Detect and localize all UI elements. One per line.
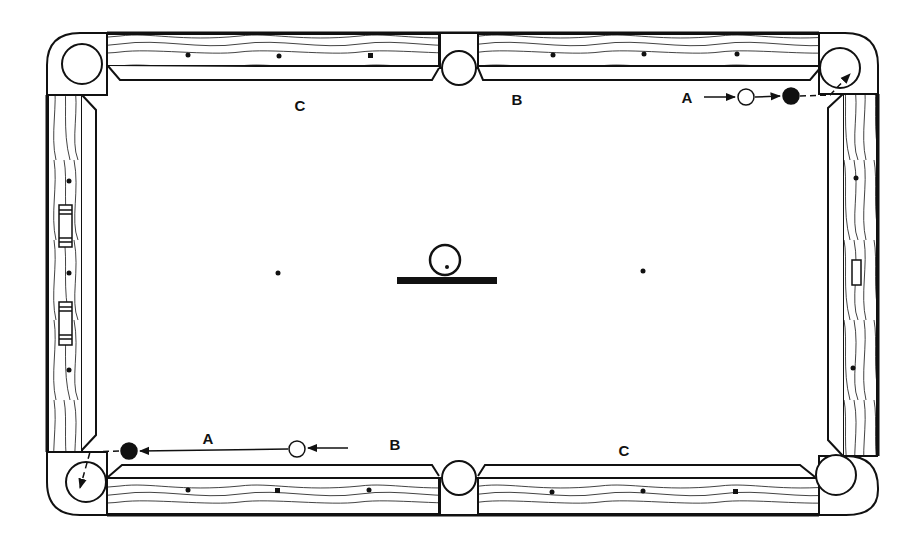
label-top-a: A bbox=[682, 90, 693, 105]
rail-diamonds bbox=[67, 52, 859, 495]
balls bbox=[121, 88, 799, 459]
label-bottom-a: A bbox=[203, 431, 214, 446]
cushions bbox=[82, 66, 843, 477]
table-frame bbox=[47, 33, 878, 515]
table-spots bbox=[276, 269, 646, 276]
label-top-b: B bbox=[512, 92, 523, 107]
head-spot bbox=[276, 271, 281, 276]
foot-spot bbox=[641, 269, 646, 274]
top-object-ball bbox=[783, 88, 799, 104]
rail-hinges bbox=[59, 205, 861, 345]
label-bottom-c: C bbox=[619, 443, 630, 458]
top-cue-ball bbox=[738, 89, 754, 105]
pool-table-diagram: C B A A B C bbox=[0, 0, 922, 544]
bottom-cue-ball bbox=[289, 441, 305, 457]
corner-pockets bbox=[47, 33, 878, 515]
pool-table-drawing bbox=[0, 0, 922, 544]
label-bottom-b: B bbox=[390, 437, 401, 452]
center-marker bbox=[397, 245, 497, 284]
bottom-object-ball bbox=[121, 443, 137, 459]
label-top-c: C bbox=[295, 98, 306, 113]
